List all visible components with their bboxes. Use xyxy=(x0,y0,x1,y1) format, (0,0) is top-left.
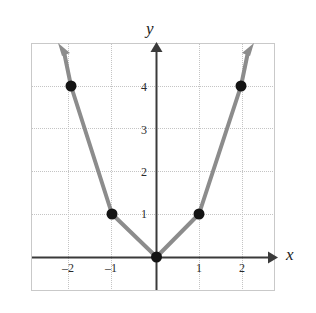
x-tick-label-2: 2 xyxy=(231,262,253,274)
data-point-1-1 xyxy=(194,209,205,220)
y-tick-label-1: 1 xyxy=(133,208,155,220)
y-tick-label-4: 4 xyxy=(133,81,155,93)
x-tick-label-1: 1 xyxy=(188,262,210,274)
coordinate-plane-svg xyxy=(0,0,316,313)
graph-figure: y x –2 –1 1 2 1 2 3 4 xyxy=(0,0,316,313)
x-tick-label--1: –1 xyxy=(100,262,122,274)
y-tick-label-3: 3 xyxy=(133,124,155,136)
data-point--1-1 xyxy=(107,209,118,220)
y-tick-label-2: 2 xyxy=(133,166,155,178)
x-axis-label: x xyxy=(286,246,294,263)
data-point-2-4 xyxy=(236,81,247,92)
x-tick-label--2: –2 xyxy=(57,262,79,274)
data-point-0-0 xyxy=(151,252,162,263)
y-axis-label: y xyxy=(146,20,154,37)
data-point--2-4 xyxy=(66,81,77,92)
